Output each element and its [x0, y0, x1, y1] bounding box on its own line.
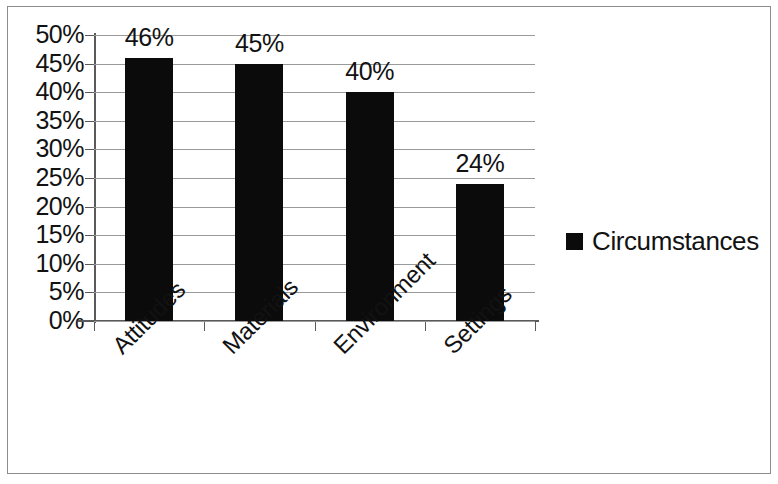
y-axis-tick	[85, 321, 94, 322]
bar-chart-figure: 50%45%40%35%30%25%20%15%10%5%0% Attitude…	[0, 0, 778, 484]
y-axis-tick-label: 10%	[10, 251, 84, 276]
y-axis-tick	[85, 149, 94, 150]
y-axis-tick	[85, 264, 94, 265]
y-axis-tick	[85, 178, 94, 179]
legend-label-circumstances: Circumstances	[592, 228, 759, 254]
y-axis-tick	[85, 35, 94, 36]
legend-swatch-icon	[566, 233, 583, 250]
x-axis-tick	[425, 322, 426, 331]
plot-area	[94, 35, 535, 321]
y-axis-tick-label: 50%	[10, 22, 84, 47]
x-axis-tick	[204, 322, 205, 331]
y-axis-tick	[85, 121, 94, 122]
y-axis-tick-label: 15%	[10, 222, 84, 247]
bar-value-label: 40%	[320, 59, 420, 84]
y-axis-tick-label: 45%	[10, 51, 84, 76]
y-axis-tick	[85, 92, 94, 93]
y-axis-tick	[85, 207, 94, 208]
y-axis-tick-label: 40%	[10, 79, 84, 104]
bar-value-label: 24%	[430, 151, 530, 176]
y-axis-tick-label: 0%	[10, 308, 84, 333]
y-axis-tick-label: 30%	[10, 136, 84, 161]
y-axis-tick-labels: 50%45%40%35%30%25%20%15%10%5%0%	[4, 0, 84, 484]
x-axis-tick	[315, 322, 316, 331]
y-axis-tick	[85, 292, 94, 293]
y-axis-tick	[85, 235, 94, 236]
x-axis-tick	[94, 322, 95, 331]
y-axis-tick-label: 20%	[10, 194, 84, 219]
y-axis-tick-label: 5%	[10, 279, 84, 304]
bar-value-label: 45%	[209, 31, 309, 56]
y-axis-tick	[85, 64, 94, 65]
y-axis-tick-label: 25%	[10, 165, 84, 190]
x-axis-tick	[535, 322, 536, 331]
y-axis-tick-label: 35%	[10, 108, 84, 133]
bar-value-label: 46%	[99, 25, 199, 50]
legend: Circumstances	[566, 228, 759, 254]
